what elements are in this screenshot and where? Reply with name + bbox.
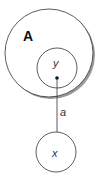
external-element-label: x xyxy=(51,147,58,159)
edge-label: a xyxy=(60,106,66,118)
outer-set-label: A xyxy=(23,28,33,44)
set-diagram: A y a x xyxy=(0,0,99,179)
